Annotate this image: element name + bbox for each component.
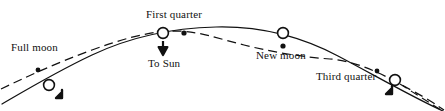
to-sun-arrow-icon bbox=[159, 41, 168, 55]
new-moon-earth-circle bbox=[278, 28, 289, 39]
full-moon-arrow-icon bbox=[56, 90, 62, 98]
full-moon-dot bbox=[36, 68, 41, 73]
label-third-quarter: Third quarter bbox=[316, 71, 376, 82]
first-quarter-moon-dot bbox=[181, 30, 186, 35]
third-quarter-earth-circle bbox=[390, 75, 401, 86]
moon-orbit-tail bbox=[400, 84, 441, 110]
full-moon-earth-circle bbox=[44, 80, 55, 91]
label-to-sun: To Sun bbox=[148, 58, 180, 69]
first-quarter-earth-circle bbox=[158, 28, 169, 39]
lunar-phase-diagram: Full moon First quarter To Sun New moon … bbox=[0, 0, 445, 111]
orbit-paths-svg bbox=[0, 0, 445, 111]
new-moon-dot bbox=[280, 43, 285, 48]
label-full-moon: Full moon bbox=[11, 42, 58, 53]
label-first-quarter: First quarter bbox=[146, 9, 202, 20]
third-quarter-arrow-icon bbox=[386, 86, 392, 94]
label-new-moon: New moon bbox=[256, 50, 306, 61]
